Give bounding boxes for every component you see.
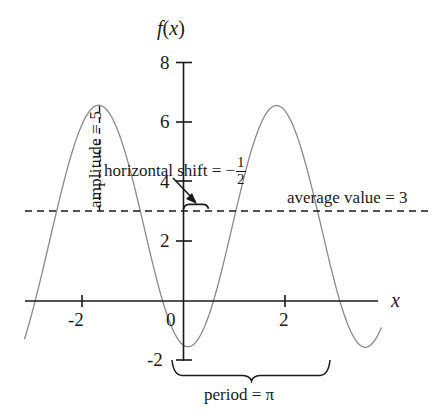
x-tick-label-0: 0	[166, 310, 176, 329]
horizontal-shift-arrow-head	[186, 193, 197, 204]
y-axis-label: f(x)	[157, 18, 185, 38]
y-tick-label-2: 2	[160, 231, 170, 250]
horizontal-shift-annotation: horizontal shift = −12	[104, 156, 247, 189]
y-axis-label-x: x	[169, 17, 178, 39]
horizontal-shift-brace	[184, 204, 209, 209]
period-brace	[172, 360, 330, 381]
x-tick-label-minus-2: -2	[68, 310, 84, 329]
fraction-numerator: 1	[235, 155, 247, 171]
fraction-denominator: 2	[235, 172, 247, 188]
amplitude-annotation: amplitude = 5	[87, 111, 104, 208]
y-tick-label-minus-2: -2	[147, 350, 163, 369]
x-axis-label: x	[391, 290, 400, 310]
y-axis-label-paren-close: )	[178, 17, 185, 39]
horizontal-shift-fraction: 12	[235, 155, 247, 188]
math-figure: f(x) x 8 6 4 2 -2 -2 0 2 amplitude = 5 h…	[0, 0, 447, 416]
average-value-annotation: average value = 3	[287, 189, 408, 206]
horizontal-shift-text: horizontal shift = −	[104, 161, 235, 180]
x-tick-label-2: 2	[279, 310, 289, 329]
plot-canvas	[0, 0, 447, 416]
y-tick-label-8: 8	[160, 53, 170, 72]
period-annotation: period = π	[204, 386, 274, 403]
y-tick-label-6: 6	[160, 112, 170, 131]
